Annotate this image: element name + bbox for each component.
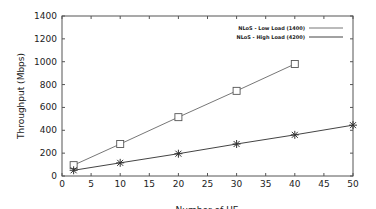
square-marker bbox=[175, 114, 182, 121]
x-tick-label: 50 bbox=[347, 179, 359, 189]
square-marker bbox=[291, 61, 298, 68]
legend-label: NLoS - Low Load (1400) bbox=[238, 25, 305, 31]
x-tick-label: 40 bbox=[289, 179, 301, 189]
legend: NLoS - Low Load (1400)NLoS - High Load (… bbox=[236, 25, 343, 41]
y-tick-label: 200 bbox=[40, 148, 57, 158]
y-tick-label: 1200 bbox=[34, 34, 57, 44]
legend-label: NLoS - High Load (4200) bbox=[236, 34, 305, 41]
x-tick-label: 15 bbox=[144, 179, 155, 189]
x-tick-label: 45 bbox=[318, 179, 329, 189]
x-tick-label: 5 bbox=[88, 179, 94, 189]
star-marker bbox=[116, 159, 124, 167]
square-marker bbox=[233, 87, 240, 94]
star-marker bbox=[291, 131, 299, 139]
y-tick-label: 1400 bbox=[34, 11, 57, 21]
y-tick-label: 600 bbox=[40, 102, 57, 112]
y-axis-label: Throughput (Mbps) bbox=[16, 53, 26, 140]
y-tick-label: 800 bbox=[40, 80, 57, 90]
x-tick-label: 10 bbox=[114, 179, 126, 189]
star-marker bbox=[70, 166, 78, 174]
x-tick-label: 20 bbox=[173, 179, 185, 189]
y-tick-label: 0 bbox=[51, 171, 57, 181]
x-tick-label: 35 bbox=[260, 179, 271, 189]
x-tick-label: 30 bbox=[231, 179, 243, 189]
x-tick-label: 0 bbox=[59, 179, 65, 189]
y-tick-label: 400 bbox=[40, 125, 57, 135]
star-marker bbox=[233, 140, 241, 148]
throughput-chart: 0510152025303540455002004006008001000120… bbox=[0, 0, 376, 209]
square-marker bbox=[117, 141, 124, 148]
x-axis-label: Number of UE bbox=[176, 205, 239, 209]
star-marker bbox=[174, 150, 182, 158]
star-marker bbox=[349, 121, 357, 129]
plot-frame bbox=[62, 16, 353, 176]
y-tick-label: 1000 bbox=[34, 57, 57, 67]
x-tick-label: 25 bbox=[202, 179, 213, 189]
